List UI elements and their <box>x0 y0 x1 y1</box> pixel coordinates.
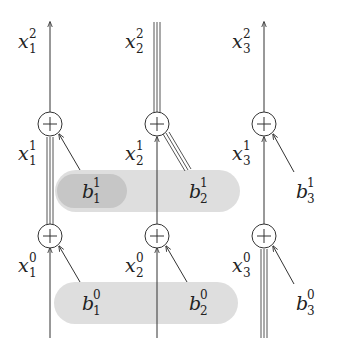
svg-text:2: 2 <box>29 27 37 41</box>
svg-text:2: 2 <box>200 192 208 206</box>
svg-text:3: 3 <box>243 266 251 280</box>
label-x1-1: x 1 1 <box>18 139 37 168</box>
label-b3-1: b 1 3 <box>296 176 315 206</box>
svg-text:x: x <box>18 30 29 52</box>
svg-text:2: 2 <box>136 42 144 56</box>
svg-text:x: x <box>232 254 243 276</box>
svg-text:3: 3 <box>243 42 251 56</box>
highlight-path-b2-1 <box>163 132 191 171</box>
svg-text:2: 2 <box>243 27 251 41</box>
svg-text:1: 1 <box>29 139 37 153</box>
svg-text:1: 1 <box>136 139 144 153</box>
column-3 <box>252 22 294 338</box>
svg-text:0: 0 <box>200 288 208 302</box>
svg-text:x: x <box>232 142 243 164</box>
svg-text:1: 1 <box>243 139 251 153</box>
svg-text:x: x <box>232 30 243 52</box>
svg-text:1: 1 <box>93 176 101 190</box>
label-x3-1: x 1 3 <box>232 139 251 168</box>
label-b3-0: b 0 3 <box>296 288 315 318</box>
svg-text:2: 2 <box>136 266 144 280</box>
svg-text:3: 3 <box>307 304 315 318</box>
svg-text:x: x <box>125 142 136 164</box>
svg-text:0: 0 <box>136 251 144 265</box>
diagram-canvas: x 2 1 x 2 2 x 2 3 x 1 1 x 1 2 x 1 3 x 0 … <box>0 0 338 358</box>
svg-text:3: 3 <box>307 192 315 206</box>
svg-text:2: 2 <box>136 27 144 41</box>
svg-text:2: 2 <box>200 304 208 318</box>
highlight-path-x3-bot <box>261 249 267 338</box>
svg-text:x: x <box>18 142 29 164</box>
svg-text:0: 0 <box>93 288 101 302</box>
residual-diagram: x 2 1 x 2 2 x 2 3 x 1 1 x 1 2 x 1 3 x 0 … <box>0 0 338 358</box>
highlight-path-x2-top <box>154 22 160 112</box>
svg-text:1: 1 <box>307 176 315 190</box>
label-x1-0: x 0 1 <box>18 251 37 280</box>
svg-text:1: 1 <box>93 192 101 206</box>
highlight-path-x1-mid <box>47 137 53 224</box>
svg-text:0: 0 <box>29 251 37 265</box>
svg-text:x: x <box>18 254 29 276</box>
svg-text:2: 2 <box>136 154 144 168</box>
label-x3-0: x 0 3 <box>232 251 251 280</box>
svg-text:1: 1 <box>29 42 37 56</box>
svg-text:0: 0 <box>243 251 251 265</box>
label-x2-0: x 0 2 <box>125 251 144 280</box>
label-x3-2: x 2 3 <box>232 27 251 56</box>
svg-text:x: x <box>125 30 136 52</box>
label-x2-1: x 1 2 <box>125 139 144 168</box>
svg-text:3: 3 <box>243 154 251 168</box>
svg-text:x: x <box>125 254 136 276</box>
svg-text:1: 1 <box>93 304 101 318</box>
label-x2-2: x 2 2 <box>125 27 144 56</box>
svg-text:1: 1 <box>29 266 37 280</box>
svg-text:1: 1 <box>200 176 208 190</box>
svg-text:1: 1 <box>29 154 37 168</box>
label-x1-2: x 2 1 <box>18 27 37 56</box>
svg-text:0: 0 <box>307 288 315 302</box>
